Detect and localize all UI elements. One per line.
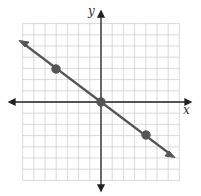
point-neg4-3 [52, 65, 60, 73]
y-axis-label: y [88, 4, 95, 18]
y-axis-down-arrow-icon [98, 185, 104, 191]
plotted-line [19, 41, 175, 158]
point-origin [97, 98, 105, 106]
x-axis-left-arrow-icon [9, 99, 15, 105]
y-axis-up-arrow-icon [98, 11, 104, 17]
x-axis-label: x [183, 103, 190, 117]
point-4-neg3 [142, 131, 150, 139]
coordinate-plane [0, 0, 201, 196]
